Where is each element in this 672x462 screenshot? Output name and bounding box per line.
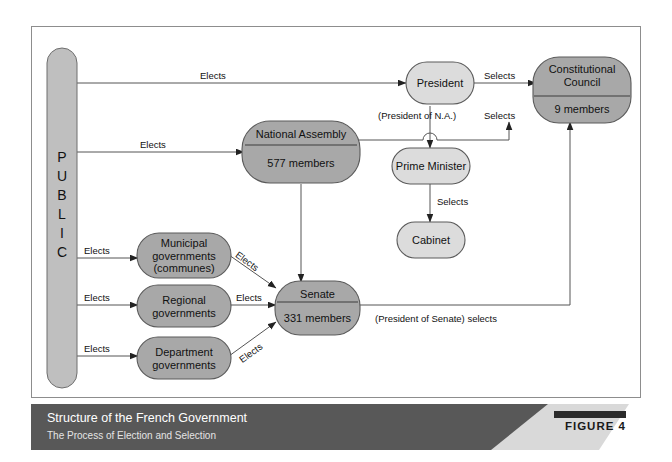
figure-badge-bar [554, 411, 626, 418]
node-prime-minister [392, 148, 470, 184]
public-letter-u: U [49, 167, 75, 186]
node-president [406, 62, 474, 104]
public-letter-b: B [49, 186, 75, 205]
footer-subtitle: The Process of Election and Selection [47, 430, 216, 441]
node-public-label: P U B L I C [49, 148, 75, 262]
public-letter-p: P [49, 148, 75, 167]
public-letter-i: I [49, 224, 75, 243]
node-municipal-governments [137, 233, 231, 278]
node-regional-governments [137, 285, 231, 327]
figure-root: Local Governments Legislature Government… [0, 0, 672, 462]
edge-department-senate [229, 322, 276, 356]
footer-title: Structure of the French Government [47, 411, 247, 425]
node-cabinet [397, 222, 465, 258]
node-national-assembly [242, 121, 360, 183]
public-letter-l: L [49, 205, 75, 224]
edge-senate-council [358, 122, 570, 305]
figure-badge-label: FIGURE 4 [565, 420, 626, 432]
edge-assembly-council-seg2 [437, 122, 509, 140]
diagram-canvas [0, 0, 672, 462]
public-letter-c: C [49, 243, 75, 262]
node-senate [275, 281, 360, 335]
edge-municipal-senate [229, 255, 276, 288]
node-department-governments [137, 337, 231, 379]
node-constitutional-council [533, 57, 631, 123]
figure-footer: Structure of the French Government The P… [31, 404, 641, 450]
